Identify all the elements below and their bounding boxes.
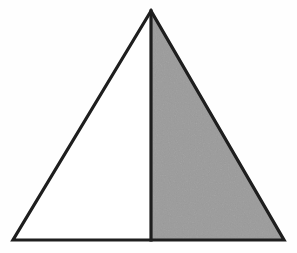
figure-container xyxy=(0,0,297,253)
triangle-figure-svg xyxy=(0,0,297,253)
